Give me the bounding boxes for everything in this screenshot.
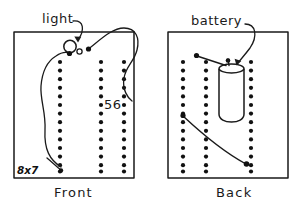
back-wire-end-node	[244, 161, 250, 167]
back-caption: Back	[216, 185, 252, 200]
front-wire-right-node	[86, 46, 91, 51]
dimension-label: 8x7	[17, 164, 39, 176]
back-wire-start-node	[180, 113, 185, 118]
sketch-svg: light 56 8x7 Front	[0, 0, 308, 212]
light-connection-node	[67, 51, 72, 56]
light-label: light	[42, 11, 73, 26]
diagram-canvas: light 56 8x7 Front	[0, 0, 308, 212]
dimension-leader-node	[59, 168, 63, 172]
battery-body	[219, 69, 244, 122]
count-56-label: 56	[104, 97, 122, 112]
front-caption: Front	[54, 185, 93, 200]
battery-wire-left-node	[194, 53, 199, 58]
battery-top-ellipse	[219, 64, 244, 73]
battery-label: battery	[191, 13, 242, 28]
battery-terminal-stub	[228, 59, 229, 66]
